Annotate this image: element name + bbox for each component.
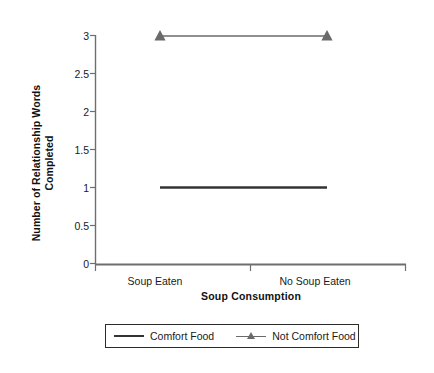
y-tick-marks	[90, 36, 95, 264]
legend-item-comfort-food: Comfort Food	[114, 324, 214, 348]
x-tick-label-soup-eaten: Soup Eaten	[110, 275, 200, 287]
legend-line-icon-comfort-food	[114, 330, 144, 342]
x-tick-label-no-soup-eaten: No Soup Eaten	[265, 275, 365, 287]
legend-label-comfort-food: Comfort Food	[150, 330, 214, 342]
legend-item-not-comfort-food: Not Comfort Food	[236, 324, 355, 348]
chart-figure: Number of Relationship Words Completed 3…	[0, 0, 434, 373]
plot-area	[0, 0, 434, 373]
legend-label-not-comfort-food: Not Comfort Food	[272, 330, 355, 342]
legend-triangle-icon-not-comfort-food	[236, 330, 266, 342]
legend: Comfort Food Not Comfort Food	[105, 324, 359, 348]
x-axis-title: Soup Consumption	[95, 290, 407, 302]
